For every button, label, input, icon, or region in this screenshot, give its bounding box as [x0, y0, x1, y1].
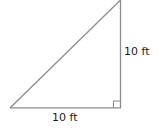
- height-label: 10 ft: [124, 46, 150, 57]
- right-triangle-diagram: [0, 0, 159, 130]
- right-angle-marker: [114, 101, 121, 108]
- hypotenuse: [10, 0, 121, 108]
- base-label: 10 ft: [52, 112, 78, 123]
